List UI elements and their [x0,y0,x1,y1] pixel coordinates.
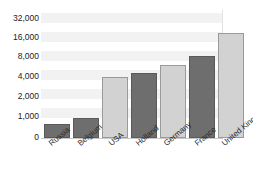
y-tick-label: 0 [0,133,39,142]
y-tick-label: 1,000 [0,112,39,121]
y-tick-label: 4,000 [0,72,39,81]
y-tick-label: 2,000 [0,92,39,101]
y-tick-label: 16,000 [0,33,39,42]
bar-united-kingdom[interactable] [218,33,244,138]
bar-chart: 32,000 16,000 8,000 4,000 2,000 1,000 0 … [0,0,253,193]
bar-series [41,13,222,138]
y-tick-label: 8,000 [0,52,39,61]
y-axis: 32,000 16,000 8,000 4,000 2,000 1,000 0 [0,0,39,160]
bar-usa[interactable] [102,77,128,138]
y-tick-label: 32,000 [0,14,39,23]
x-axis: Russia Belgium USA Holland Germany Franc… [41,139,253,193]
